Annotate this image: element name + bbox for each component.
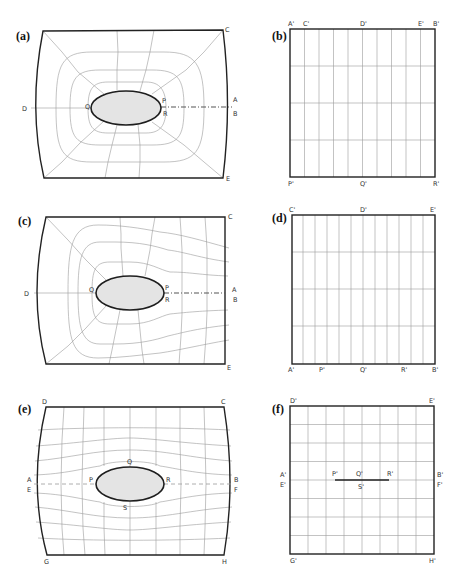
point-label-P-prime: P' xyxy=(332,470,338,478)
point-label-P: P xyxy=(89,476,93,484)
panel-b-grid xyxy=(290,29,435,177)
panel-c: (c) C D A B E P Q R xyxy=(18,213,237,372)
point-label-E-prime-left: E' xyxy=(280,481,286,489)
panel-a: (a) C D A B E P Q R xyxy=(16,26,238,183)
point-label-G-prime: G' xyxy=(290,557,297,565)
panel-d-grid xyxy=(292,215,435,364)
point-label-A: A xyxy=(232,286,237,294)
point-label-Q-prime: Q' xyxy=(360,366,367,374)
point-label-R-prime: R' xyxy=(433,180,440,188)
point-label-A: A xyxy=(27,476,32,484)
point-label-C: C xyxy=(221,398,226,406)
panel-b: (b) A' C' D' E' B' P' Q' R' xyxy=(272,20,440,188)
point-label-D-prime: D' xyxy=(290,397,297,405)
point-label-E-prime: E' xyxy=(430,206,436,214)
point-label-Q: Q xyxy=(89,286,94,294)
point-label-R: R xyxy=(166,476,171,484)
point-label-R-prime: R' xyxy=(401,366,408,374)
point-label-E-prime: E' xyxy=(418,20,424,28)
panel-label-c: (c) xyxy=(18,214,31,228)
panel-f: (f) D' E' A' E' B' F' P' Q' R' S' G' xyxy=(272,397,443,565)
point-label-Q-prime: Q' xyxy=(360,180,367,188)
point-label-B-prime: B' xyxy=(432,366,438,374)
point-label-H: H xyxy=(222,558,227,566)
point-label-A-prime: A' xyxy=(280,471,286,479)
point-label-B: B xyxy=(234,476,238,484)
point-label-B: B xyxy=(233,110,237,118)
point-label-B-prime: B' xyxy=(437,471,443,479)
panel-a-ellipse xyxy=(91,91,161,125)
point-label-B-prime: B' xyxy=(433,20,439,28)
point-label-A-prime: A' xyxy=(288,20,294,28)
point-label-D: D xyxy=(24,290,29,298)
point-label-S: S xyxy=(123,504,127,512)
panel-label-b: (b) xyxy=(272,29,287,43)
panel-label-d: (d) xyxy=(272,211,287,225)
panel-label-f: (f) xyxy=(272,402,284,416)
point-label-B: B xyxy=(233,296,237,304)
point-label-D: D xyxy=(22,105,27,113)
point-label-P-prime: P' xyxy=(288,180,294,188)
point-label-R: R xyxy=(163,110,168,118)
panel-d: (d) C' D' E' A' P' Q' R' B' xyxy=(272,206,438,374)
point-label-E: E xyxy=(226,175,230,183)
point-label-Q: Q xyxy=(85,103,90,111)
point-label-R-prime: R' xyxy=(387,470,394,478)
point-label-S-prime: S' xyxy=(358,483,364,491)
panel-label-a: (a) xyxy=(16,29,30,43)
panel-c-ellipse xyxy=(96,276,164,310)
point-label-A-prime: A' xyxy=(288,366,294,374)
point-label-P: P xyxy=(165,284,169,292)
point-label-C-prime: C' xyxy=(303,20,310,28)
panel-d-boundary xyxy=(292,215,435,364)
point-label-F-prime: F' xyxy=(437,481,443,489)
point-label-Q: Q xyxy=(127,458,132,466)
panel-e: (e) D C A E B F P Q xyxy=(18,398,238,566)
grid-mapping-figure: (a) C D A B E P Q R (b) xyxy=(0,0,460,584)
panel-e-ellipse xyxy=(96,467,164,501)
point-label-Q-prime: Q' xyxy=(356,470,363,478)
point-label-E: E xyxy=(27,486,31,494)
point-label-C: C xyxy=(228,213,233,221)
point-label-E: E xyxy=(227,364,231,372)
point-label-F: F xyxy=(234,486,238,494)
point-label-P-prime: P' xyxy=(319,366,325,374)
point-label-D-prime: D' xyxy=(360,20,367,28)
point-label-D: D xyxy=(42,398,47,406)
point-label-A: A xyxy=(233,96,238,104)
point-label-P: P xyxy=(162,97,166,105)
point-label-D-prime: D' xyxy=(360,206,367,214)
point-label-E-prime: E' xyxy=(429,397,435,405)
point-label-G: G xyxy=(44,558,49,566)
point-label-C-prime: C' xyxy=(289,206,296,214)
point-label-R: R xyxy=(165,296,170,304)
point-label-C: C xyxy=(225,26,230,34)
panel-label-e: (e) xyxy=(18,402,31,416)
point-label-H-prime: H' xyxy=(429,557,436,565)
